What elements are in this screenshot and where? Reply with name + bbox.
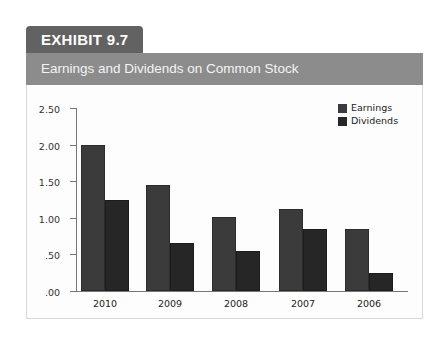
bar-earnings-2010 — [81, 145, 105, 291]
y-tick-label: 1.50 — [20, 176, 60, 187]
legend-swatch-earnings — [338, 104, 347, 113]
legend-label: Dividends — [351, 115, 398, 126]
y-tick-label: .50 — [20, 249, 60, 260]
bar-earnings-2007 — [279, 209, 303, 291]
bar-earnings-2009 — [146, 185, 170, 291]
x-tick-label: 2008 — [211, 298, 261, 309]
x-tick-label: 2010 — [80, 298, 130, 309]
x-tick-label: 2006 — [344, 298, 394, 309]
bar-dividends-2010 — [105, 200, 129, 292]
bar-dividends-2006 — [369, 273, 393, 291]
y-tick-label: 2.00 — [20, 140, 60, 151]
legend-swatch-dividends — [338, 117, 347, 126]
y-tick-label: 1.00 — [20, 213, 60, 224]
x-tick-label: 2009 — [145, 298, 195, 309]
y-tick-label: 2.50 — [20, 103, 60, 114]
chart-axes — [0, 0, 446, 344]
x-tick-label: 2007 — [278, 298, 328, 309]
legend-label: Earnings — [351, 102, 392, 113]
bar-dividends-2009 — [170, 243, 194, 291]
bar-dividends-2008 — [236, 251, 260, 291]
y-tick-label: .00 — [20, 286, 60, 297]
bar-chart: .00.501.001.502.002.50201020092008200720… — [0, 0, 446, 344]
bar-dividends-2007 — [303, 229, 327, 291]
bar-earnings-2008 — [212, 217, 236, 291]
bar-earnings-2006 — [345, 229, 369, 291]
